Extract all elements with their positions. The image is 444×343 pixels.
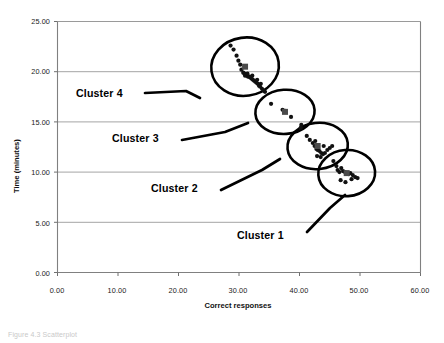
cluster-label-3: Cluster 3 — [112, 132, 159, 144]
xtick-label-60: 60.00 — [400, 286, 440, 295]
xtick-label-50: 50.00 — [339, 286, 379, 295]
data-point-cluster-1-1 — [334, 164, 338, 168]
data-point-cluster-4-24 — [245, 72, 249, 76]
ytick-label-20: 20.00 — [16, 67, 50, 76]
data-point-cluster-4-4 — [238, 63, 242, 67]
xtick-label-0: 0.00 — [37, 286, 77, 295]
data-point-cluster-2-14 — [315, 154, 319, 158]
leader-line-cluster-1 — [307, 195, 345, 232]
ytick-label-25: 25.00 — [16, 17, 50, 26]
data-point-cluster-4-27 — [259, 82, 263, 86]
figure-caption: Figure 4.3 Scatterplot — [8, 331, 77, 338]
y-axis-title: Time (minutes) — [12, 139, 21, 193]
centroid-marker-cluster-2 — [315, 143, 321, 149]
leader-line-cluster-2 — [221, 159, 280, 190]
xtick-label-10: 10.00 — [97, 286, 137, 295]
data-point-cluster-2-0 — [299, 126, 303, 130]
data-point-cluster-1-3 — [337, 170, 341, 174]
figure-container: 25.00 20.00 15.00 10.00 5.00 0.00 0.00 1… — [0, 0, 444, 343]
data-point-cluster-2-15 — [319, 155, 323, 159]
ytick-label-0: 0.00 — [16, 269, 50, 278]
ytick-label-10: 10.00 — [16, 168, 50, 177]
data-point-cluster-4-2 — [234, 54, 238, 58]
data-point-cluster-2-2 — [308, 138, 312, 142]
data-point-cluster-2-17 — [313, 139, 317, 143]
data-point-cluster-1-13 — [343, 180, 347, 184]
data-point-cluster-4-26 — [255, 78, 259, 82]
ytick-label-15: 15.00 — [16, 118, 50, 127]
data-point-cluster-3-3 — [289, 115, 293, 119]
cluster-label-4: Cluster 4 — [76, 87, 123, 99]
leader-line-cluster-3 — [182, 123, 248, 140]
data-point-cluster-1-12 — [339, 178, 343, 182]
data-point-cluster-1-0 — [331, 159, 335, 163]
data-point-cluster-4-28 — [263, 90, 267, 94]
xtick-label-20: 20.00 — [158, 286, 198, 295]
data-point-cluster-2-1 — [305, 134, 309, 138]
data-point-cluster-2-16 — [322, 144, 326, 148]
xtick-label-40: 40.00 — [279, 286, 319, 295]
leader-line-cluster-4 — [145, 91, 200, 98]
data-point-cluster-3-0 — [269, 102, 273, 106]
cluster-label-2: Cluster 2 — [151, 182, 198, 194]
data-point-cluster-1-15 — [355, 176, 359, 180]
x-axis-title: Correct responses — [158, 301, 318, 310]
centroid-marker-cluster-4 — [242, 64, 248, 70]
data-point-cluster-2-13 — [330, 144, 334, 148]
data-point-cluster-4-3 — [236, 59, 240, 63]
data-point-cluster-4-0 — [228, 43, 232, 47]
centroid-marker-cluster-1 — [344, 170, 350, 176]
centroid-marker-cluster-3 — [282, 109, 288, 115]
data-point-cluster-4-25 — [250, 74, 254, 78]
cluster-label-1: Cluster 1 — [237, 229, 284, 241]
ytick-label-5: 5.00 — [16, 219, 50, 228]
xtick-label-30: 30.00 — [218, 286, 258, 295]
data-point-cluster-1-14 — [349, 177, 353, 181]
data-point-cluster-4-1 — [231, 48, 235, 52]
